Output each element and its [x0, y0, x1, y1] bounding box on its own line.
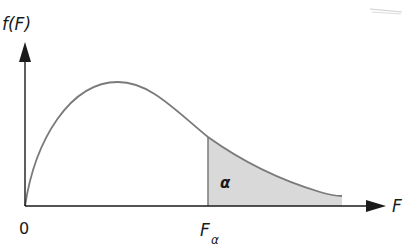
f-distribution-diagram: f(F) F 0 F α α	[0, 0, 415, 246]
critical-value-label: F	[200, 220, 210, 240]
y-axis-arrow-icon	[19, 42, 31, 62]
scan-artifact-2	[372, 12, 401, 14]
y-axis-label: f(F)	[2, 14, 31, 34]
x-axis-label: F	[392, 196, 402, 216]
alpha-shaded-region	[208, 137, 342, 206]
critical-value-subscript: α	[211, 233, 219, 246]
scan-artifact	[370, 9, 402, 12]
origin-label: 0	[19, 219, 29, 238]
x-axis-arrow-icon	[366, 200, 386, 212]
alpha-area-label: α	[220, 174, 231, 192]
